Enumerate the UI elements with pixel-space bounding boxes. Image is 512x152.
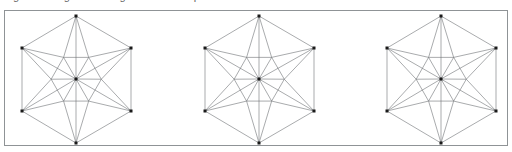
caption-text: Fig. 1 Hexagonal triangulated mesh patte… — [3, 0, 237, 2]
center-spoke-vertex — [387, 79, 441, 111]
center-spoke-vertex — [441, 79, 496, 111]
inner-ring-edge — [416, 57, 428, 79]
mesh-vertex-node — [386, 110, 389, 113]
clipped-caption-strip: Fig. 1 Hexagonal triangulated mesh patte… — [0, 0, 512, 8]
figure-panel-root: Fig. 1 Hexagonal triangulated mesh patte… — [0, 0, 512, 152]
diagram-panel-inner — [5, 11, 507, 145]
inner-ring-edge — [454, 57, 467, 79]
petal-edge — [387, 48, 416, 79]
mesh-center-node — [440, 78, 443, 81]
mesh-vertex-node — [495, 47, 498, 50]
diagram-panel — [4, 10, 508, 146]
center-spoke-vertex — [441, 48, 496, 79]
petal-edge — [454, 101, 496, 111]
mesh-vertex-node — [386, 47, 389, 50]
center-spoke-petal — [429, 79, 441, 101]
petal-edge — [387, 101, 429, 111]
petal-edge — [387, 79, 416, 111]
petal-edge — [466, 48, 496, 79]
mesh-vertex-node — [440, 15, 443, 18]
mesh-vertex-node — [440, 142, 443, 145]
inner-ring-edge — [416, 79, 428, 101]
figure-3-svg — [5, 11, 509, 147]
inner-ring-edge — [454, 79, 467, 101]
center-spoke-vertex — [387, 48, 441, 79]
petal-edge — [466, 79, 496, 111]
petal-edge — [454, 48, 496, 57]
center-spoke-petal — [441, 79, 454, 101]
mesh-vertex-node — [495, 110, 498, 113]
petal-edge — [387, 48, 429, 57]
